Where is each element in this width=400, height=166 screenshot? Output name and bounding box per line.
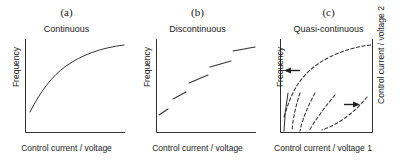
panel-a-xlabel: Control current / voltage: [0, 143, 133, 153]
panel-c-ramp-5: [322, 97, 367, 130]
panel-b-segment-4: [210, 61, 231, 67]
panel-c-ramp-3: [300, 93, 315, 131]
panel-c-ramp-family: [284, 93, 367, 131]
panel-c-xlabel: Control current / voltage 1: [264, 143, 382, 153]
panel-c-ramp-2: [292, 93, 300, 131]
panel-b-segment-3: [189, 75, 208, 83]
panel-b-ylabel: Frequency: [142, 27, 152, 107]
panel-c-right-arrow-icon: [344, 102, 360, 108]
panel-b-segment-1: [159, 109, 168, 115]
panel-c-ramp-4: [309, 95, 335, 131]
figure-root: (a) Continuous Frequency Control current…: [0, 0, 400, 166]
panel-b-segment-5: [233, 47, 255, 51]
panel-a: (a) Continuous Frequency Control current…: [0, 0, 133, 166]
panel-c-left-arrow-icon: [284, 68, 300, 74]
panel-c-ylabel-right: Control current / voltage 2: [376, 0, 386, 110]
panel-b-segments: [159, 47, 255, 115]
panel-c-axes-left: [281, 39, 373, 133]
panel-a-axes: [26, 39, 126, 133]
panel-a-curve-continuous: [30, 45, 124, 112]
panel-b-axes: [157, 39, 257, 133]
panel-c: (c) Quasi-continuous: [262, 0, 395, 166]
panel-c-ylabel: Frequency: [275, 27, 285, 107]
panel-a-ylabel: Frequency: [11, 27, 21, 107]
panel-b: (b) Discontinuous Frequency Control curr…: [131, 0, 264, 166]
panel-b-xlabel: Control current / voltage: [131, 143, 264, 153]
panel-b-segment-2: [173, 92, 186, 99]
panel-c-curve-frequency-envelope: [284, 45, 371, 117]
